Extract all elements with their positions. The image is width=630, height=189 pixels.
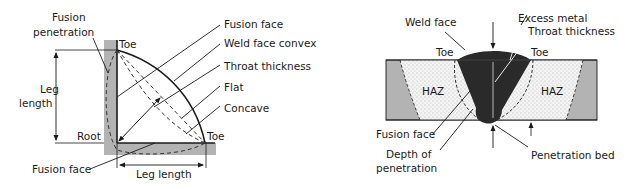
label-leg-length-v-2: length	[19, 97, 52, 109]
label-leg-length-v-1: Leg	[40, 83, 59, 95]
label-toe-top: Toe	[118, 38, 137, 50]
weld-diagrams: Fusion penetration Toe Leg length Root T…	[0, 0, 630, 189]
label-throat-thickness: Throat thickness	[223, 60, 311, 72]
fillet-weld-diagram: Fusion penetration Toe Leg length Root T…	[19, 11, 316, 180]
label-depth-of-penetration-1: Depth of	[386, 148, 432, 160]
label-flat: Flat	[224, 81, 244, 93]
label-toe-left: Toe	[435, 46, 454, 58]
label-concave: Concave	[224, 102, 269, 114]
label-haz-right: HAZ	[541, 85, 563, 97]
label-toe-right: Toe	[206, 130, 225, 142]
label-throat-thickness: Throat thickness	[527, 25, 615, 37]
label-weld-face: Weld face	[405, 16, 457, 28]
label-weld-face-convex: Weld face convex	[224, 37, 316, 49]
label-fusion-penetration-1: Fusion	[52, 11, 86, 23]
label-penetration-bed: Penetration bed	[531, 149, 615, 161]
label-fusion-face: Fusion face	[376, 128, 435, 140]
label-leg-length-h: Leg length	[136, 168, 192, 180]
label-haz-left: HAZ	[422, 85, 444, 97]
label-fusion-penetration-2: penetration	[33, 26, 94, 38]
throat-thickness-arrow	[119, 98, 160, 141]
label-depth-of-penetration-2: penetration	[376, 162, 437, 174]
label-fusion-face-bottom: Fusion face	[32, 163, 91, 175]
horizontal-plate	[104, 143, 216, 155]
label-root: Root	[77, 130, 101, 142]
butt-weld-diagram: Weld face Excess metal Throat thickness …	[376, 12, 615, 174]
label-excess-metal: Excess metal	[518, 12, 587, 24]
label-toe-right: Toe	[530, 46, 549, 58]
label-fusion-face-right: Fusion face	[224, 18, 283, 30]
